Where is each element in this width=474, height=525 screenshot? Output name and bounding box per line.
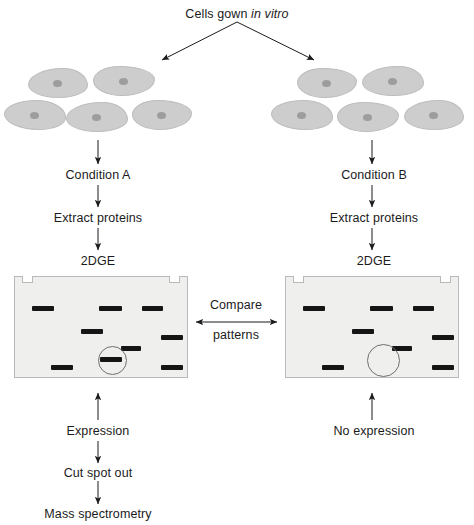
- protein-spot: [161, 365, 183, 370]
- protein-spot: [32, 306, 54, 311]
- label-no-expression: No expression: [276, 424, 472, 438]
- proteomics-workflow-diagram: Cells gown in vitro: [0, 0, 474, 525]
- gel-notch-left: [293, 276, 304, 283]
- cell-nucleus: [388, 78, 397, 85]
- highlight-circle-absent: [367, 344, 400, 377]
- protein-spot: [432, 365, 454, 370]
- cell-nucleus: [157, 112, 166, 119]
- protein-spot: [352, 329, 374, 334]
- cell: [271, 100, 333, 130]
- protein-spot: [322, 365, 344, 370]
- gel-notch-left: [22, 276, 33, 283]
- cell-nucleus: [119, 78, 128, 85]
- cell: [28, 68, 88, 98]
- label-2dge-right: 2DGE: [276, 254, 472, 268]
- label-compare-line1: Compare: [186, 298, 286, 312]
- label-condition-b: Condition B: [276, 168, 472, 182]
- protein-spot: [432, 335, 454, 340]
- cell-group-right: [240, 0, 474, 145]
- cell-group-left: [0, 0, 240, 145]
- label-expression: Expression: [0, 424, 196, 438]
- protein-spot: [99, 306, 122, 311]
- label-mass-spectrometry: Mass spectrometry: [0, 507, 196, 521]
- cell: [362, 66, 424, 96]
- cell-nucleus: [30, 112, 39, 119]
- protein-spot: [303, 306, 325, 311]
- gel-notch-right: [440, 276, 451, 283]
- protein-spot: [81, 329, 103, 334]
- cell-nucleus: [363, 114, 372, 121]
- cell-nucleus: [297, 112, 306, 119]
- cell: [66, 102, 128, 132]
- label-extract-proteins-left: Extract proteins: [0, 211, 196, 225]
- cell: [337, 102, 399, 132]
- cell-nucleus: [53, 80, 62, 87]
- protein-spot: [413, 306, 434, 311]
- cell: [132, 100, 192, 130]
- cell-nucleus: [322, 80, 331, 87]
- label-condition-a: Condition A: [0, 168, 196, 182]
- protein-spot-of-interest: [100, 357, 122, 362]
- protein-spot: [370, 306, 393, 311]
- cell: [297, 68, 357, 98]
- protein-spot: [161, 335, 183, 340]
- gel-left: [14, 276, 188, 378]
- cell: [4, 100, 66, 130]
- label-compare-line2: patterns: [186, 328, 286, 342]
- gel-notch-right: [169, 276, 180, 283]
- cell: [93, 66, 155, 96]
- label-2dge-left: 2DGE: [0, 254, 196, 268]
- label-cut-spot-out: Cut spot out: [0, 466, 196, 480]
- gel-right: [285, 276, 459, 378]
- cell-nucleus: [92, 114, 101, 121]
- protein-spot: [142, 306, 163, 311]
- protein-spot: [51, 365, 73, 370]
- cell: [404, 100, 464, 130]
- label-extract-proteins-right: Extract proteins: [276, 211, 472, 225]
- cell-nucleus: [429, 112, 438, 119]
- protein-spot: [121, 346, 141, 351]
